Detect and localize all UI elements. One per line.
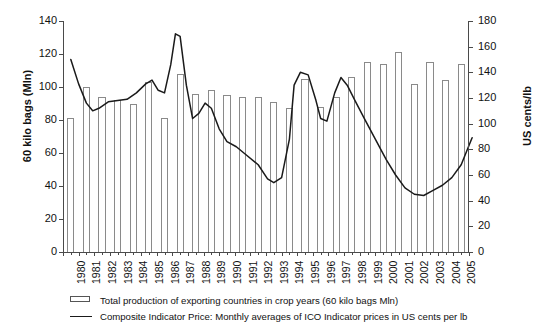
y-axis-right-tick [468,98,473,99]
composite-indicator-price-line [71,34,472,196]
y-axis-left-tick-label: 20 [27,212,57,224]
x-axis-minor-tick [196,252,197,255]
x-axis-minor-tick [414,252,415,255]
x-axis-tick-label: 1989 [215,261,227,284]
x-axis-minor-tick [165,252,166,255]
x-axis-tick-label: 2000 [387,261,399,284]
line-series [63,21,469,252]
x-axis-tick [297,252,298,256]
x-axis-tick [375,252,376,256]
x-axis-tick [360,252,361,256]
y-axis-left-tick-label: 80 [27,113,57,125]
y-axis-left-tick [59,120,64,121]
x-axis-minor-tick [446,252,447,255]
x-axis-tick [453,252,454,256]
x-axis-tick-label: 1995 [309,261,321,284]
x-axis-minor-tick [289,252,290,255]
x-axis-tick-label: 1990 [231,261,243,284]
x-axis-tick-label: 2001 [403,261,415,284]
x-axis-tick [313,252,314,256]
x-axis-minor-tick [149,252,150,255]
legend-bar-swatch-icon [70,295,92,305]
x-axis-minor-tick [258,252,259,255]
y-axis-left-tick-label: 140 [27,14,57,26]
y-axis-right-tick-label: 140 [478,65,508,77]
x-axis-tick [250,252,251,256]
x-axis-minor-tick [211,252,212,255]
y-axis-left-tick-label: 40 [27,179,57,191]
legend-item-production: Total production of exporting countries … [70,292,467,308]
y-axis-right-tick-label: 80 [478,142,508,154]
x-axis-tick [110,252,111,256]
x-axis-tick-label: 1996 [325,261,337,284]
y-axis-left-tick-label: 120 [27,47,57,59]
x-axis-tick [438,252,439,256]
x-axis-tick-label: 2004 [450,261,462,284]
x-axis-tick [235,252,236,256]
x-axis-tick-label: 1987 [184,261,196,284]
y-axis-right-tick [468,124,473,125]
x-axis-tick [391,252,392,256]
x-axis-minor-tick [102,252,103,255]
y-axis-left-tick [59,186,64,187]
y-axis-right-tick-label: 0 [478,245,508,257]
chart-legend: Total production of exporting countries … [70,292,467,324]
x-axis-tick [94,252,95,256]
x-axis-tick-label: 1999 [372,261,384,284]
x-axis-minor-tick [352,252,353,255]
x-axis-tick-label: 1985 [153,261,165,284]
y-axis-left-tick [59,54,64,55]
y-axis-right-tick-label: 100 [478,117,508,129]
x-axis-tick-label: 1986 [169,261,181,284]
legend-label-price: Composite Indicator Price: Monthly avera… [100,311,467,322]
x-axis-tick-label: 1983 [122,261,134,284]
x-axis-tick [469,252,470,256]
y-axis-left-tick [59,21,64,22]
chart-container: 60 kilo bags (Mln) US cents/lb 020406080… [0,0,550,333]
x-axis-minor-tick [399,252,400,255]
x-axis-tick-label: 2003 [434,261,446,284]
x-axis-minor-tick [227,252,228,255]
x-axis-tick [125,252,126,256]
y-axis-left-line [63,21,64,252]
y-axis-left-tick [59,87,64,88]
x-axis-tick-label: 1997 [340,261,352,284]
y-axis-right-tick [468,72,473,73]
x-axis-minor-tick [430,252,431,255]
x-axis-tick-label: 1992 [262,261,274,284]
y-axis-left-tick-label: 100 [27,80,57,92]
x-axis-minor-tick [336,252,337,255]
x-axis-tick [188,252,189,256]
y-axis-left-tick-label: 60 [27,146,57,158]
y-axis-label-right: US cents/lb [521,41,533,191]
x-axis-tick-label: 1980 [75,261,87,284]
x-axis-minor-tick [133,252,134,255]
x-axis-tick [219,252,220,256]
y-axis-right-tick-label: 20 [478,219,508,231]
y-axis-right-tick-label: 40 [478,194,508,206]
x-axis-tick-label: 1981 [90,261,102,284]
x-axis-tick [157,252,158,256]
x-axis-tick [328,252,329,256]
y-axis-left-tick-label: 0 [27,245,57,257]
x-axis-tick [282,252,283,256]
y-axis-right-tick-label: 180 [478,14,508,26]
legend-item-price: Composite Indicator Price: Monthly avera… [70,308,467,324]
x-axis-tick [266,252,267,256]
y-axis-left-tick [59,219,64,220]
x-axis-tick-label: 2005 [465,261,477,284]
x-axis-tick-label: 1984 [137,261,149,284]
x-axis-tick-label: 1998 [356,261,368,284]
x-axis-tick-label: 1982 [106,261,118,284]
x-axis-tick-label: 2002 [418,261,430,284]
x-axis-tick-label: 1988 [200,261,212,284]
y-axis-right-line [468,21,469,252]
x-axis-minor-tick [383,252,384,255]
y-axis-right-tick [468,201,473,202]
x-axis-tick [204,252,205,256]
x-axis-tick [344,252,345,256]
y-axis-right-tick [468,21,473,22]
x-axis-tick [422,252,423,256]
x-axis-tick-label: 1993 [278,261,290,284]
x-axis-minor-tick [368,252,369,255]
